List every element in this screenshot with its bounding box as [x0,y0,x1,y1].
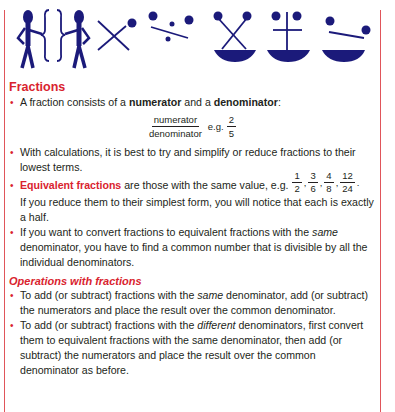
separator: , [320,175,323,190]
text: : [278,96,281,108]
example-denominator: 5 [227,127,236,139]
equivalent-fractions-note: If you reduce them to their simplest for… [9,195,374,225]
text: To add (or subtract) fractions with the [20,319,197,331]
subtract-balance-icon [322,17,371,63]
text: A fraction consists of a [20,96,129,108]
left-border-line [4,10,5,412]
section-title: Fractions [9,80,374,95]
right-border-line [380,10,381,412]
emphasis-different: different [197,319,235,331]
separator: , [304,175,307,190]
fraction-12-24: 1224 [340,171,355,194]
den: 24 [340,183,355,194]
fraction-denominator-label: denominator [147,127,204,139]
operations-bullets: To add (or subtract) fractions with the … [9,288,374,378]
add-balance-icon [267,12,310,63]
den: 8 [324,183,333,194]
fraction-3-6: 36 [308,171,317,194]
fraction-1-2: 12 [292,171,301,194]
separator: , [336,175,339,190]
num: 3 [308,171,317,183]
fraction-4-8: 48 [324,171,333,194]
equivalent-fraction-examples: 12, 36, 48, 1224. [291,171,360,194]
subheading-operations: Operations with fractions [9,274,374,288]
text: are those with the same value, e.g. [121,179,291,191]
divide-icon [149,12,194,42]
fraction-definition-example: numerator denominator e.g. 2 5 [9,114,374,139]
fractions-bullets-continued: With calculations, it is best to try and… [9,145,374,270]
num: 12 [340,171,355,183]
bullet-fraction-definition: A fraction consists of a numerator and a… [9,95,374,110]
emphasis-same: same [197,289,223,301]
emphasis-same: same [312,226,338,238]
den: 2 [292,183,301,194]
period: . [357,175,360,190]
bullet-equivalent-fractions: Equivalent fractions are those with the … [9,178,374,194]
fraction-example: 2 5 [227,114,236,139]
term-denominator: denominator [214,96,278,108]
fractions-section: Fractions A fraction consists of a numer… [9,80,374,378]
operation-icons-banner [14,6,374,72]
term-equivalent-fractions: Equivalent fractions [20,179,121,191]
eg-label: e.g. [208,119,224,134]
bullet-different-denominators: To add (or subtract) fractions with the … [9,318,374,378]
multiply-icon [98,19,137,51]
bullet-common-denominator: If you want to convert fractions to equi… [9,225,374,270]
term-numerator: numerator [129,96,181,108]
num: 4 [324,171,333,183]
multiply-balance-icon [214,12,257,63]
num: 1 [292,171,301,183]
example-numerator: 2 [227,114,236,127]
fraction-numerator-label: numerator [152,114,199,127]
text: If you want to convert fractions to equi… [20,226,312,238]
den: 6 [308,183,317,194]
equivalent-figures-icon [18,10,89,68]
text: To add (or subtract) fractions with the [20,289,197,301]
bullet-same-denominator: To add (or subtract) fractions with the … [9,288,374,318]
text: and a [181,96,213,108]
text: denominator, you have to find a common n… [20,241,367,268]
fraction-word: numerator denominator [147,114,204,139]
fractions-bullets: A fraction consists of a numerator and a… [9,95,374,110]
